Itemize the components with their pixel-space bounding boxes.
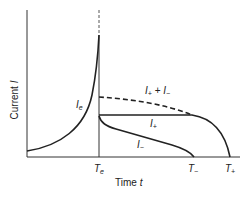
curve-iminus (99, 116, 194, 157)
tick-tminus: T− (188, 163, 198, 175)
label-iminus: I− (137, 139, 144, 151)
x-axis-label: Time t (115, 177, 144, 188)
label-iplus: I+ (150, 118, 157, 130)
y-axis-label: Current I (9, 80, 20, 119)
label-sum: I+ + I− (145, 85, 170, 97)
curve-iplus (99, 115, 230, 157)
chart: Current I Time t Te T− T+ Ie I+ I− I+ + … (0, 0, 246, 197)
tick-tplus: T+ (225, 163, 235, 175)
curve-ie (27, 35, 99, 151)
curve-sum (99, 97, 192, 115)
tick-te: Te (94, 163, 104, 175)
label-ie: Ie (76, 99, 83, 111)
